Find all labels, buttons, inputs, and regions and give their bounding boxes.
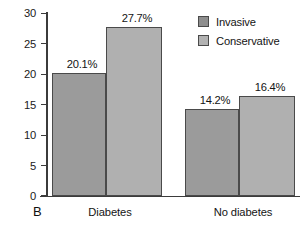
bar-chart-panel-b: 30 25 20 15 10 5 0 20.1% 27.7% 14.2% 16.… <box>0 0 304 235</box>
legend-item-invasive: Invasive <box>198 13 280 30</box>
x-axis-category-label-diabetes: Diabetes <box>52 206 168 218</box>
legend-label-invasive: Invasive <box>216 16 256 28</box>
y-axis-tick-label: 30 <box>12 7 36 19</box>
data-label-diabetes-conservative: 27.7% <box>107 12 167 24</box>
legend-item-conservative: Conservative <box>198 32 280 49</box>
bar-nodiabetes-conservative <box>239 96 295 196</box>
bar-nodiabetes-invasive <box>185 109 239 196</box>
legend-swatch-icon <box>198 16 209 27</box>
data-label-nodiabetes-conservative: 16.4% <box>240 81 300 93</box>
y-axis-tick-label: 5 <box>12 160 36 172</box>
y-axis-tick-label: 10 <box>12 129 36 141</box>
legend-label-conservative: Conservative <box>216 35 280 47</box>
y-axis-tick-label: 25 <box>12 38 36 50</box>
y-axis-tick-label: 20 <box>12 68 36 80</box>
data-label-diabetes-invasive: 20.1% <box>52 58 112 70</box>
y-axis-tick-label: 0 <box>12 190 36 202</box>
y-axis-tick-label: 15 <box>12 99 36 111</box>
bar-diabetes-invasive <box>52 73 106 196</box>
legend-swatch-icon <box>198 35 209 46</box>
bar-diabetes-conservative <box>106 27 162 196</box>
chart-legend: Invasive Conservative <box>198 13 280 51</box>
data-label-nodiabetes-invasive: 14.2% <box>185 94 245 106</box>
x-axis-category-label-no-diabetes: No diabetes <box>185 206 301 218</box>
panel-letter-label: B <box>33 204 42 219</box>
